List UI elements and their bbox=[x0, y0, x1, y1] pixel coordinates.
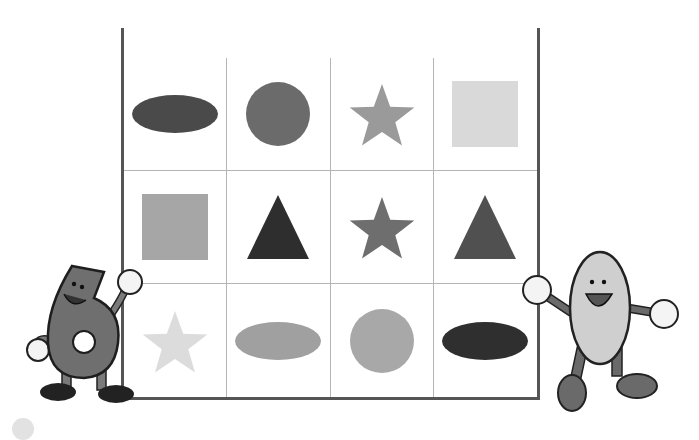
star-icon bbox=[337, 187, 427, 267]
number-zero-mascot-icon bbox=[512, 248, 692, 414]
decorative-circle bbox=[12, 418, 34, 440]
circle-icon bbox=[233, 74, 323, 154]
ellipse-icon bbox=[233, 301, 323, 381]
number-six-mascot-icon bbox=[22, 258, 147, 408]
shape-grid bbox=[124, 58, 537, 397]
board-cell-3-3[interactable] bbox=[331, 284, 434, 397]
board-cell-2-3[interactable] bbox=[331, 171, 434, 284]
square-icon bbox=[440, 74, 530, 154]
board-cell-3-2[interactable] bbox=[227, 284, 330, 397]
ellipse-icon bbox=[130, 74, 220, 154]
board-cell-1-4[interactable] bbox=[434, 58, 537, 171]
board-cell-1-3[interactable] bbox=[331, 58, 434, 171]
square-icon bbox=[130, 187, 220, 267]
board-cell-1-2[interactable] bbox=[227, 58, 330, 171]
triangle-icon bbox=[233, 187, 323, 267]
star-icon bbox=[337, 74, 427, 154]
board-cell-1-1[interactable] bbox=[124, 58, 227, 171]
board-cell-2-2[interactable] bbox=[227, 171, 330, 284]
circle-icon bbox=[337, 301, 427, 381]
